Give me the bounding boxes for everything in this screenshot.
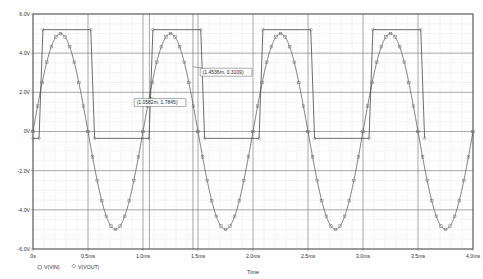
annotation-label: (1.4536m, 3.3109): [203, 69, 244, 75]
legend-entry[interactable]: V(VOUT): [72, 264, 100, 270]
legend-label: V(VOUT): [78, 264, 100, 270]
x-tick-label: 3.0ms: [356, 253, 371, 259]
y-tick-label: 0V: [24, 128, 31, 134]
legend-label: V(VIN): [44, 264, 60, 270]
x-axis-tick-labels: 0s0.5ms1.0ms1.5ms2.0ms2.5ms3.0ms3.5ms4.0…: [30, 249, 480, 259]
x-tick-label: 4.0ms: [466, 253, 481, 259]
y-axis-tick-labels: 6.0V4.0V2.0V0V-2.0V-4.0V-6.0V: [18, 11, 33, 252]
x-axis-title: Time: [247, 269, 259, 275]
y-tick-label: -4.0V: [18, 207, 31, 213]
x-tick-label: 0s: [30, 253, 36, 259]
y-tick-label: -2.0V: [18, 168, 31, 174]
x-tick-label: 0.5ms: [81, 253, 96, 259]
x-tick-label: 1.5ms: [191, 253, 206, 259]
x-tick-label: 1.0ms: [136, 253, 151, 259]
annotation-label: (1.0582m, 1.7845): [137, 99, 178, 105]
waveform-plot[interactable]: (1.0582m, 1.7845)(1.4536m, 3.3109) 6.0V4…: [0, 0, 483, 279]
x-tick-label: 2.5ms: [301, 253, 316, 259]
waveform-viewer: (1.0582m, 1.7845)(1.4536m, 3.3109) 6.0V4…: [0, 0, 483, 279]
y-tick-label: 6.0V: [19, 11, 30, 17]
y-tick-label: 2.0V: [19, 89, 30, 95]
y-tick-label: 4.0V: [19, 50, 30, 56]
legend-entry[interactable]: V(VIN): [38, 264, 60, 270]
x-tick-label: 2.0ms: [246, 253, 261, 259]
legend[interactable]: V(VIN)V(VOUT): [38, 264, 100, 270]
y-tick-label: -6.0V: [18, 246, 31, 252]
x-tick-label: 3.5ms: [411, 253, 426, 259]
